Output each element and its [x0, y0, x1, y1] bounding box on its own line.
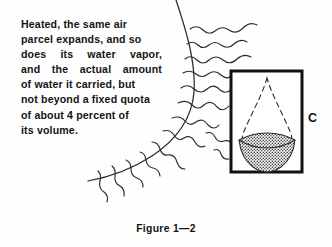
- figure-caption: Figure 1—2: [118, 223, 214, 234]
- text-word: and: [21, 62, 40, 77]
- text-line: not beyond a fixed quota: [21, 92, 162, 107]
- text-line: its volume.: [21, 123, 162, 138]
- droplet-box: [231, 71, 302, 172]
- text-line: parcel expands, and so: [21, 32, 162, 47]
- text-line: does its water vapor,: [21, 47, 162, 62]
- text-word: its: [60, 47, 73, 62]
- text-word: vapor,: [130, 47, 162, 62]
- text-word: amount: [123, 62, 162, 77]
- text-word: does: [21, 47, 46, 62]
- text-word: the: [52, 62, 68, 77]
- figure-page: Heated, the same air parcel expands, and…: [0, 0, 332, 247]
- text-word: water: [87, 47, 115, 62]
- body-text-block: Heated, the same air parcel expands, and…: [21, 17, 162, 138]
- text-word: actual: [80, 62, 112, 77]
- text-line: Heated, the same air: [21, 17, 162, 32]
- text-line: and the actual amount: [21, 62, 162, 77]
- text-line: of water it carried, but: [21, 77, 162, 92]
- box-label-c: C: [308, 111, 317, 125]
- text-line: of about 4 percent of: [21, 108, 162, 123]
